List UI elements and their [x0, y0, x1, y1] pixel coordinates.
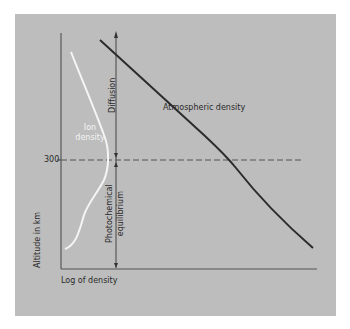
arrow-down-300-icon — [114, 153, 118, 158]
ion-density-label-line1: Ion — [72, 123, 108, 133]
y-tick-300: 300 — [44, 155, 59, 164]
atmospheric-density-label: Atmospheric density — [163, 103, 245, 112]
chart-svg — [0, 0, 350, 329]
ion-density-label-line2: density — [72, 133, 108, 143]
ion-density-label: Ion density — [72, 123, 108, 143]
ion-density-curve — [65, 52, 108, 249]
diffusion-label: Diffusion — [108, 78, 117, 113]
arrow-down-bottom-icon — [114, 263, 118, 268]
y-axis-label: Altitude in km — [33, 212, 42, 268]
photochemical-equilibrium-label: Photochemical equilibrium — [104, 184, 126, 243]
arrow-up-top-icon — [114, 31, 118, 38]
photochemical-label-line2: equilibrium — [115, 184, 126, 243]
photochemical-label-line1: Photochemical — [104, 184, 115, 243]
x-axis-label: Log of density — [61, 276, 117, 285]
arrow-up-300-icon — [114, 162, 118, 167]
atmospheric-density-curve — [100, 40, 313, 248]
